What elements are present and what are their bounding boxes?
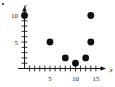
x-axis <box>18 66 106 70</box>
y-tick-label-10: 10 <box>11 12 19 20</box>
data-point <box>82 55 89 62</box>
x-tick-label-10: 10 <box>72 75 80 83</box>
scatter-plot: 5 10 15 5 10 y x <box>0 0 115 87</box>
x-axis-label: x <box>108 66 113 74</box>
x-tick-label-5: 5 <box>48 75 52 83</box>
x-tick-label-15: 15 <box>92 75 100 83</box>
plot-canvas: 5 10 15 5 10 y x <box>0 0 115 87</box>
data-points <box>21 12 94 67</box>
y-tick-label-5: 5 <box>15 39 19 47</box>
data-point <box>87 12 94 19</box>
y-axis-label: y <box>23 2 28 10</box>
data-point <box>47 39 54 46</box>
data-point <box>72 60 79 67</box>
data-point <box>21 12 28 19</box>
data-point <box>62 55 69 62</box>
data-point <box>87 39 94 46</box>
